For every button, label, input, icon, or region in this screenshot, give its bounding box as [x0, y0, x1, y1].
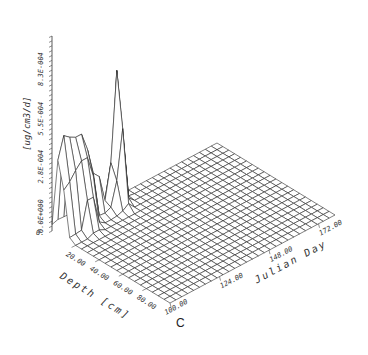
- z-tick: [49, 134, 52, 136]
- z-tick: [49, 168, 52, 170]
- z-tick: [49, 41, 52, 43]
- z-tick: [49, 51, 52, 53]
- z-tick: [49, 207, 52, 209]
- z-tick: [49, 192, 52, 194]
- z-tick: [49, 231, 52, 233]
- z-tick-label: 0.0E+000: [37, 199, 45, 233]
- x-tick-label: 40.00: [88, 265, 110, 283]
- z-tick: [49, 187, 52, 189]
- z-tick: [49, 143, 52, 145]
- z-axis: [49, 36, 52, 233]
- x-tick-label: 0.: [36, 229, 44, 237]
- x-tick-label: 60.00: [112, 279, 134, 297]
- y-tick: [319, 224, 320, 228]
- z-tick: [49, 163, 52, 165]
- surface-plot: 0.0E+0002.8E-0045.5E-0048.3E-004[ug/cm3/…: [0, 0, 368, 355]
- z-tick: [49, 124, 52, 126]
- z-tick: [49, 56, 52, 58]
- z-axis-label: [ug/cm3/d]: [22, 97, 32, 151]
- z-tick: [49, 65, 52, 67]
- x-tick: [119, 274, 123, 276]
- z-tick: [49, 182, 52, 184]
- z-tick-label: 2.8E-004: [37, 150, 45, 184]
- z-tick: [49, 70, 52, 72]
- z-tick: [49, 216, 52, 218]
- z-tick: [49, 104, 52, 106]
- z-tick: [49, 226, 52, 228]
- y-tick: [220, 277, 221, 281]
- z-tick: [49, 212, 52, 214]
- z-tick: [49, 114, 52, 116]
- x-tick-label: 80.00: [135, 293, 157, 311]
- z-tick: [49, 90, 52, 92]
- z-tick: [49, 129, 52, 131]
- z-tick: [49, 99, 52, 101]
- figure-caption: C: [176, 316, 185, 330]
- x-tick: [142, 289, 146, 291]
- y-tick: [269, 250, 270, 254]
- z-tick-label: 8.3E-004: [37, 52, 45, 86]
- z-tick: [49, 148, 52, 150]
- z-tick: [49, 36, 52, 38]
- z-tick: [49, 80, 52, 82]
- z-tick-label: 5.5E-004: [37, 102, 45, 136]
- z-tick: [49, 221, 52, 223]
- x-tick: [95, 260, 99, 262]
- x-tick: [72, 245, 76, 247]
- z-tick: [49, 158, 52, 160]
- z-tick: [49, 153, 52, 155]
- x-tick-label: 20.00: [65, 250, 87, 268]
- z-tick: [49, 95, 52, 97]
- x-axis-label: Depth [cm]: [57, 270, 132, 322]
- z-tick: [49, 202, 52, 204]
- z-tick: [49, 75, 52, 77]
- z-tick: [49, 60, 52, 62]
- z-tick: [49, 46, 52, 48]
- z-tick: [49, 197, 52, 199]
- z-tick: [49, 177, 52, 179]
- z-tick: [49, 173, 52, 175]
- z-tick: [49, 138, 52, 140]
- z-tick: [49, 85, 52, 87]
- z-tick: [49, 109, 52, 111]
- z-tick: [49, 119, 52, 121]
